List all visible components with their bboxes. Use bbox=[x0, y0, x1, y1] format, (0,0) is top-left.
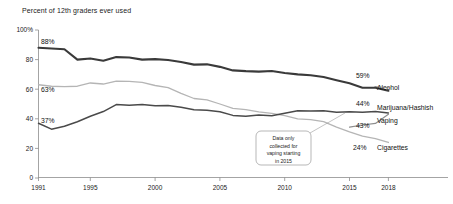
y-tick-label-20: 20 bbox=[26, 145, 34, 152]
series-label-cigarettes: Cigarettes bbox=[377, 144, 409, 152]
x-tick-label-2018: 2018 bbox=[381, 184, 396, 191]
series-line-alcohol bbox=[39, 48, 389, 91]
y-tick-label-60: 60 bbox=[26, 86, 34, 93]
x-tick-label-2000: 2000 bbox=[148, 184, 163, 191]
y-axis-ticks bbox=[35, 30, 39, 178]
start-value-label-marijuana: 37% bbox=[41, 117, 55, 124]
start-value-label-alcohol: 88% bbox=[41, 38, 55, 45]
y-tick-label-40: 40 bbox=[26, 115, 34, 122]
end-value-label-vaping: 43% bbox=[356, 122, 370, 129]
end-value-label-alcohol: 59% bbox=[356, 72, 370, 79]
chart-plot-area: 100% 80 60 40 20 0 1991 1995 2000 2005 2… bbox=[0, 0, 453, 204]
x-tick-label-2015: 2015 bbox=[342, 184, 357, 191]
series-label-vaping: Vaping bbox=[377, 117, 398, 125]
x-tick-label-2005: 2005 bbox=[213, 184, 228, 191]
callout-line-3: vaping starting bbox=[267, 150, 301, 156]
callout-line-4: in 2015 bbox=[275, 158, 292, 164]
callout-line-1: Data only bbox=[273, 135, 295, 141]
end-value-label-marijuana: 44% bbox=[356, 100, 370, 107]
x-tick-label-1991: 1991 bbox=[31, 184, 46, 191]
series-label-marijuana: Marijuana/Hashish bbox=[377, 104, 434, 112]
callout-leader-line bbox=[310, 113, 345, 133]
x-axis-ticks bbox=[39, 178, 389, 182]
y-tick-label-0: 0 bbox=[29, 174, 33, 181]
x-tick-label-2010: 2010 bbox=[277, 184, 292, 191]
y-tick-label-80: 80 bbox=[26, 56, 34, 63]
end-value-label-cigarettes: 24% bbox=[353, 144, 367, 151]
y-tick-label-100: 100% bbox=[16, 26, 33, 33]
series-line-marijuana bbox=[39, 104, 389, 129]
chart-container: Percent of 12th graders ever used 100% 8… bbox=[0, 0, 453, 204]
start-value-label-cigarettes: 63% bbox=[41, 86, 55, 93]
callout-line-2: collected for bbox=[270, 143, 298, 149]
x-tick-label-1995: 1995 bbox=[83, 184, 98, 191]
